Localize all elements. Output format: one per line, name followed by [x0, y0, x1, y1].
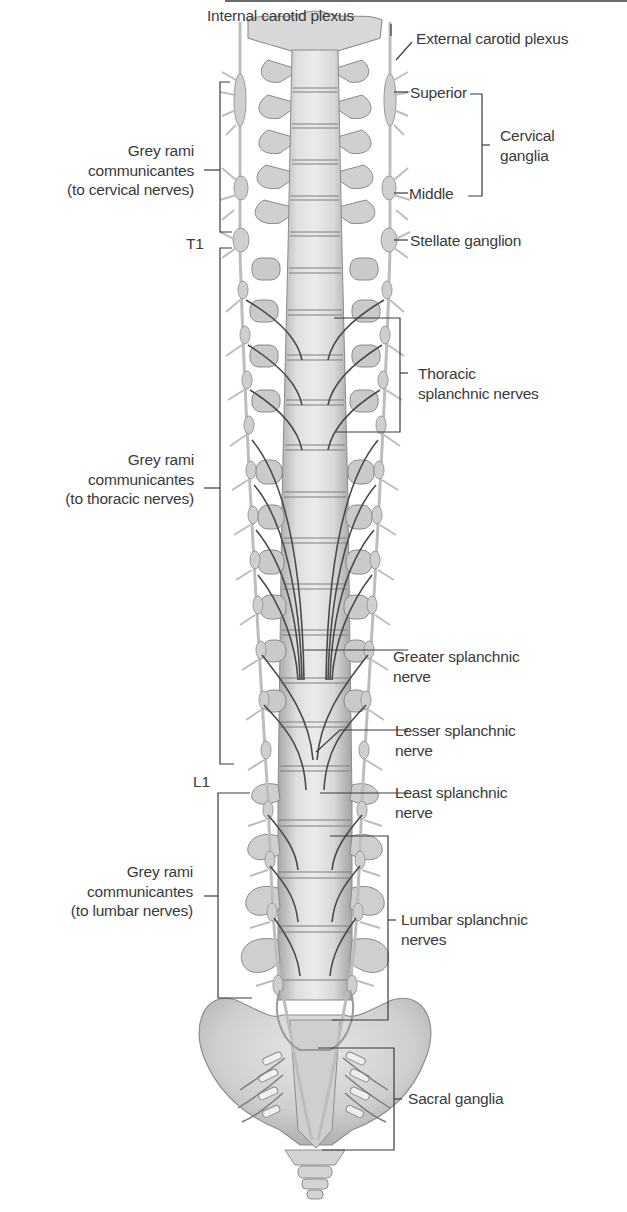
label-line: Greater splanchnic [393, 647, 520, 667]
label-least-splanchnic-nerve: Least splanchnic nerve [395, 783, 507, 822]
vertebral-column [241, 11, 388, 1000]
label-t1: T1 [186, 234, 204, 254]
label-lumbar-splanchnic-nerves: Lumbar splanchnic nerves [401, 910, 528, 949]
label-superior-ganglion: Superior [410, 83, 467, 103]
label-line: nerve [395, 803, 507, 823]
label-grey-rami-thoracic: Grey rami communicantes (to thoracic ner… [65, 450, 194, 509]
label-line: nerve [395, 741, 516, 761]
label-line: Lumbar splanchnic [401, 910, 528, 930]
label-stellate-ganglion: Stellate ganglion [410, 231, 521, 251]
label-line: (to cervical nerves) [67, 180, 194, 200]
label-middle-ganglion: Middle [409, 184, 453, 204]
label-line: Grey rami [71, 862, 193, 882]
label-line: communicantes [71, 882, 193, 902]
label-grey-rami-lumbar: Grey rami communicantes (to lumbar nerve… [71, 862, 193, 921]
label-thoracic-splanchnic-nerves: Thoracic splanchnic nerves [418, 364, 539, 403]
label-line: communicantes [65, 470, 194, 490]
label-line: Lesser splanchnic [395, 721, 516, 741]
label-line: (to lumbar nerves) [71, 901, 193, 921]
label-line: ganglia [500, 146, 554, 166]
label-sacral-ganglia: Sacral ganglia [408, 1089, 503, 1109]
label-grey-rami-cervical: Grey rami communicantes (to cervical ner… [67, 141, 194, 200]
label-l1: L1 [193, 772, 210, 792]
label-line: communicantes [67, 161, 194, 181]
label-external-carotid-plexus: External carotid plexus [416, 29, 568, 49]
label-line: (to thoracic nerves) [65, 489, 194, 509]
label-line: splanchnic nerves [418, 384, 539, 404]
label-line: Thoracic [418, 364, 539, 384]
label-cervical-ganglia: Cervical ganglia [500, 126, 554, 165]
label-line: Cervical [500, 126, 554, 146]
label-line: nerves [401, 930, 528, 950]
label-line: Grey rami [67, 141, 194, 161]
label-line: Least splanchnic [395, 783, 507, 803]
label-lesser-splanchnic-nerve: Lesser splanchnic nerve [395, 721, 516, 760]
label-internal-carotid-plexus: Internal carotid plexus [207, 6, 354, 26]
label-line: nerve [393, 667, 520, 687]
label-greater-splanchnic-nerve: Greater splanchnic nerve [393, 647, 520, 686]
label-line: Grey rami [65, 450, 194, 470]
